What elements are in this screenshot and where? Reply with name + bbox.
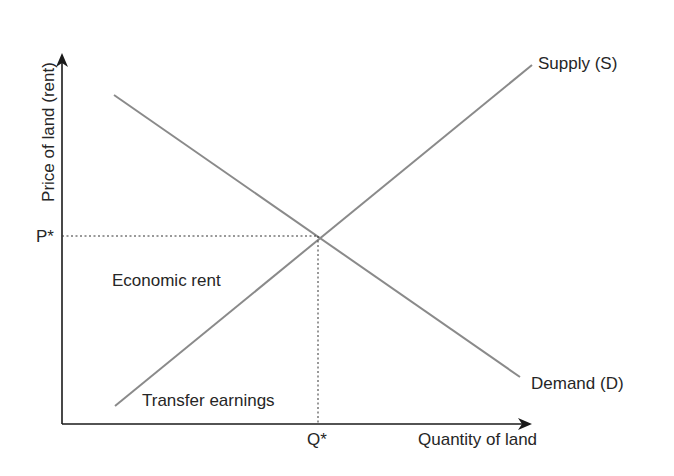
p-star-label: P* [36, 228, 54, 245]
economic-rent-label: Economic rent [112, 272, 221, 289]
supply-label: Supply (S) [538, 55, 617, 72]
supply-curve [115, 65, 532, 406]
y-axis-label: Price of land (rent) [40, 62, 57, 202]
transfer-earnings-label: Transfer earnings [142, 392, 275, 409]
x-axis-label: Quantity of land [418, 431, 537, 448]
q-star-label: Q* [307, 431, 327, 448]
demand-label: Demand (D) [531, 375, 624, 392]
